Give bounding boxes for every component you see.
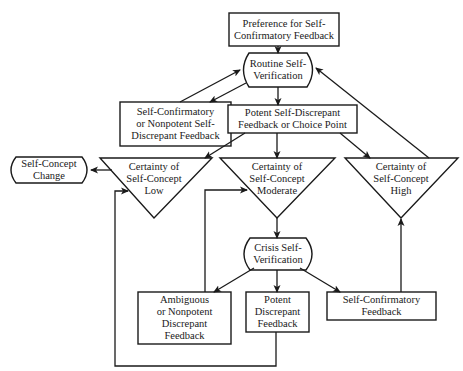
label-line: Routine Self- xyxy=(250,58,306,70)
label-line: Potent Self-Discrepant xyxy=(245,107,340,119)
label-line: Confirmatory Feedback xyxy=(234,30,334,42)
label-line: Low xyxy=(144,185,163,197)
label-line: Self-Concept xyxy=(126,173,181,185)
node-nonpotent-label: Self-Confirmatory or Nonpotent Self- Dis… xyxy=(120,102,231,146)
label-line: Moderate xyxy=(257,185,297,197)
label-line: Discrepant Feedback xyxy=(131,130,219,142)
node-choice-point-label: Potent Self-Discrepant Feedback or Choic… xyxy=(228,105,357,133)
label-line: Ambiguous xyxy=(160,294,209,306)
edge-crisis-ambiguous xyxy=(214,268,254,292)
label-line: Verification xyxy=(253,254,303,266)
label-line: Self-Confirmatory xyxy=(137,106,215,118)
label-line: Crisis Self- xyxy=(254,242,302,254)
label-line: Discrepant xyxy=(162,318,207,330)
label-line: Certainty of xyxy=(252,161,302,173)
label-line: Feedback or Choice Point xyxy=(238,119,347,131)
label-line: Certainty of xyxy=(376,161,426,173)
label-line: Self-Concept xyxy=(373,173,428,185)
node-confirm-bottom-label: Self-Confirmatory Feedback xyxy=(327,292,436,320)
label-line: or Nonpotent xyxy=(157,306,213,318)
node-potent-label: Potent Discrepant Feedback xyxy=(246,292,309,332)
node-moderate-label: Certainty of Self-Concept Moderate xyxy=(237,161,317,197)
label-line: Potent xyxy=(264,294,291,306)
label-line: Feedback xyxy=(361,306,401,318)
node-low-label: Certainty of Self-Concept Low xyxy=(114,161,194,197)
edge-nonpotent-routine xyxy=(180,70,240,102)
label-line: Preference for Self- xyxy=(243,18,326,30)
label-line: Change xyxy=(33,170,65,182)
label-line: Feedback xyxy=(257,318,297,330)
node-routine-label: Routine Self- Verification xyxy=(241,53,315,87)
label-line: High xyxy=(391,185,412,197)
label-line: or Nonpotent Self- xyxy=(136,118,215,130)
label-line: Certainty of xyxy=(129,161,179,173)
label-line: Self-Concept xyxy=(249,173,304,185)
edge-crisis-confirm xyxy=(300,268,340,292)
node-change-label: Self-Concept Change xyxy=(8,157,90,183)
label-line: Verification xyxy=(253,70,303,82)
label-line: Discrepant xyxy=(255,306,300,318)
edge-choice-high xyxy=(340,133,370,158)
node-preference-label: Preference for Self- Confirmatory Feedba… xyxy=(229,13,339,46)
node-ambiguous-label: Ambiguous or Nonpotent Discrepant Feedba… xyxy=(138,292,231,344)
label-line: Self-Confirmatory xyxy=(343,294,421,306)
label-line: Self-Concept xyxy=(21,158,76,170)
node-crisis-label: Crisis Self- Verification xyxy=(240,238,316,270)
label-line: Feedback xyxy=(164,330,204,342)
node-high-label: Certainty of Self-Concept High xyxy=(361,161,441,197)
